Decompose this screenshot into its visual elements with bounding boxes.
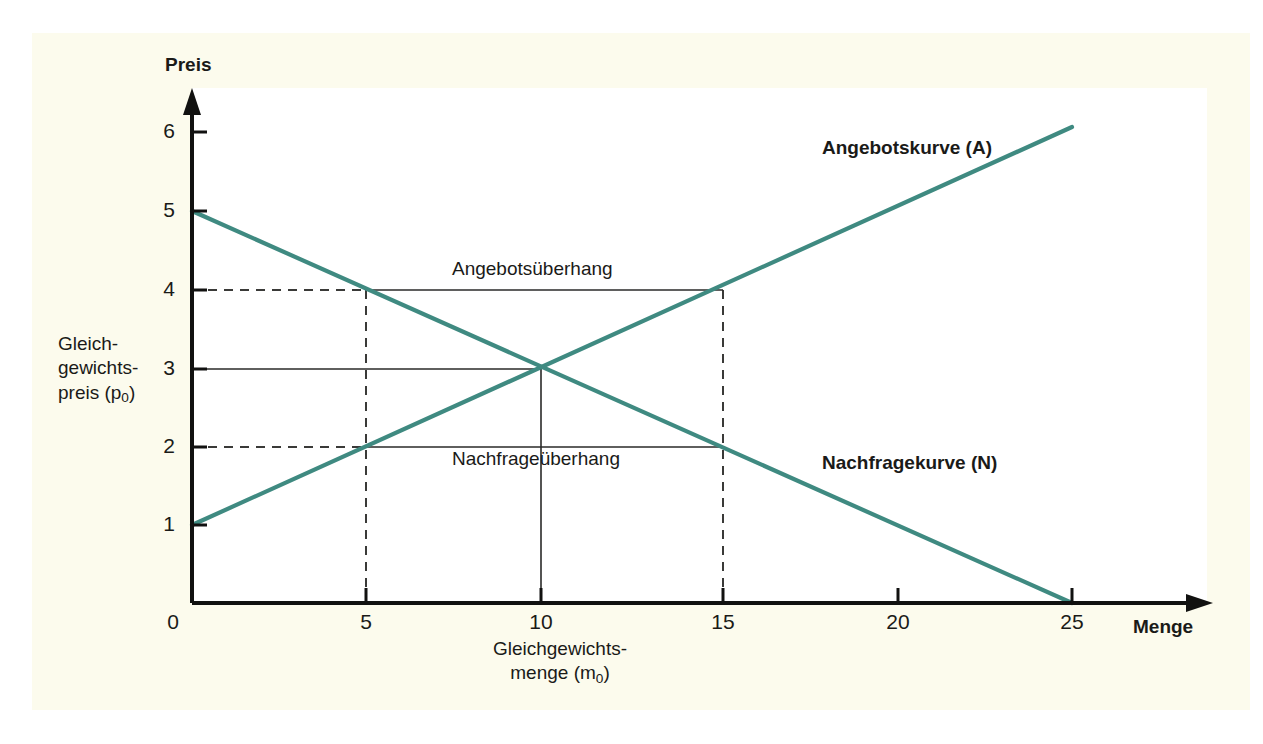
x-tick-label-15: 15 xyxy=(703,610,743,634)
x-tick-label-25: 25 xyxy=(1052,610,1092,634)
equilibrium-quantity-subscript: 0 xyxy=(596,671,604,686)
equilibrium-price-line-3: preis (p0) xyxy=(58,381,138,405)
figure-root: Preis Menge 6 5 4 3 2 1 0 5 10 15 20 25 … xyxy=(0,0,1263,744)
equilibrium-quantity-line-1: Gleichgewichts- xyxy=(420,637,700,661)
equilibrium-price-subscript: 0 xyxy=(121,390,129,405)
x-tick-label-10: 10 xyxy=(521,610,561,634)
equilibrium-price-suffix: ) xyxy=(129,382,135,403)
equilibrium-quantity-suffix: ) xyxy=(603,662,609,683)
equilibrium-price-label: Gleich- gewichts- preis (p0) xyxy=(58,332,138,405)
supply-curve-label: Angebotskurve (A) xyxy=(822,137,992,159)
surplus-annotation: Angebotsüberhang xyxy=(452,258,613,280)
equilibrium-quantity-line-2: menge (m0) xyxy=(420,661,700,685)
equilibrium-price-prefix: preis (p xyxy=(58,382,121,403)
y-axis-arrow-icon xyxy=(183,88,201,115)
shortage-annotation: Nachfrageüberhang xyxy=(452,448,620,470)
y-tick-label-3: 3 xyxy=(145,356,175,380)
equilibrium-price-line-1: Gleich- xyxy=(58,332,138,356)
x-tick-label-5: 5 xyxy=(346,610,386,634)
y-tick-label-6: 6 xyxy=(145,119,175,143)
equilibrium-price-line-2: gewichts- xyxy=(58,356,138,380)
y-tick-label-5: 5 xyxy=(145,198,175,222)
x-tick-label-20: 20 xyxy=(878,610,918,634)
y-tick-label-4: 4 xyxy=(145,277,175,301)
y-tick-label-1: 1 xyxy=(145,512,175,536)
y-tick-label-2: 2 xyxy=(145,434,175,458)
x-axis-arrow-icon xyxy=(1186,594,1213,612)
x-tick-label-0: 0 xyxy=(153,610,193,634)
demand-curve xyxy=(192,211,1072,603)
equilibrium-quantity-label: Gleichgewichts- menge (m0) xyxy=(420,637,700,686)
equilibrium-quantity-prefix: menge (m xyxy=(510,662,596,683)
x-axis-title: Menge xyxy=(1133,616,1193,638)
y-axis-title: Preis xyxy=(165,54,211,76)
demand-curve-label: Nachfragekurve (N) xyxy=(822,452,997,474)
